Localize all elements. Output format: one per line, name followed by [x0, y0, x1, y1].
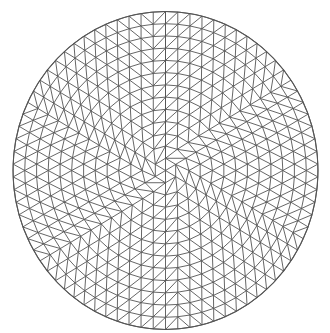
triangular-mesh-svg: [0, 0, 330, 333]
mesh-diagram: [0, 0, 330, 333]
mesh-edges: [13, 12, 318, 330]
mesh-edge-path: [13, 12, 318, 330]
